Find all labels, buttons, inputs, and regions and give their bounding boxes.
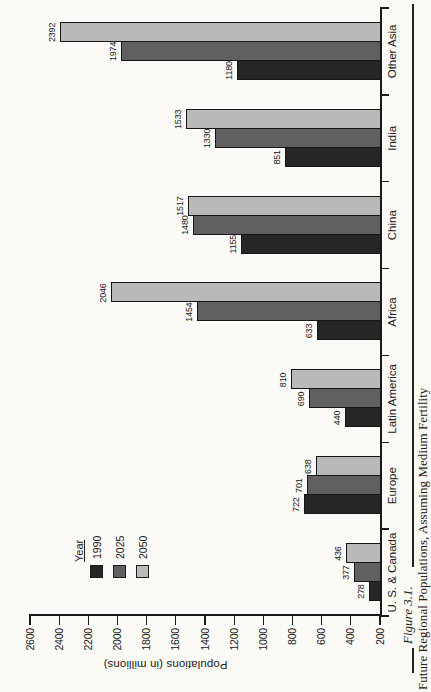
legend-label: 2050: [137, 536, 149, 559]
bar: [369, 581, 381, 601]
category-label: Other Asia: [386, 8, 398, 95]
category-label: U. S. & Canada: [386, 529, 398, 616]
bar: [197, 302, 381, 322]
bar: [317, 321, 381, 341]
bar: [345, 407, 381, 427]
bar: [60, 22, 381, 42]
bar-value-label: 436: [333, 534, 343, 574]
y-tick: [350, 614, 351, 625]
bar-value-label: 1533: [173, 99, 183, 139]
y-tick-label: 600: [315, 628, 327, 662]
y-tick: [321, 614, 322, 625]
category-label: Latin America: [386, 355, 398, 442]
bar: [285, 147, 381, 167]
y-tick: [29, 614, 30, 625]
legend-title: Year: [73, 536, 85, 562]
y-tick: [263, 614, 264, 625]
bar: [241, 234, 381, 254]
bar: [304, 494, 381, 514]
caption-rule-lead: [412, 648, 414, 673]
y-tick: [117, 614, 118, 625]
bar: [111, 283, 381, 303]
y-tick: [292, 614, 293, 625]
legend-entry-2050: 2050: [136, 536, 149, 578]
y-axis-title: Populations (in millions): [66, 656, 266, 671]
y-tick-label: 800: [286, 628, 298, 662]
bar-value-label: 638: [303, 447, 313, 487]
category-label: Europe: [386, 442, 398, 529]
legend-entry-1990: 1990: [90, 536, 103, 578]
bar: [309, 388, 382, 408]
bar: [291, 369, 381, 389]
y-tick: [175, 614, 176, 625]
bar: [307, 475, 381, 495]
bar-value-label: 2392: [47, 12, 57, 52]
legend-swatch-2050: [136, 565, 149, 578]
y-tick: [59, 614, 60, 625]
bar: [186, 109, 381, 129]
legend-label: 2025: [114, 536, 126, 559]
category-label: India: [386, 95, 398, 182]
bar-value-label: 1517: [175, 186, 185, 226]
y-tick: [234, 614, 235, 625]
bar: [237, 60, 381, 80]
bar: [346, 543, 381, 563]
y-tick: [204, 614, 205, 625]
bar: [316, 456, 381, 476]
legend-swatch-2025: [113, 565, 126, 578]
legend-label: 1990: [91, 536, 103, 559]
caption-rule-trail: [412, 4, 414, 567]
y-tick-label: 400: [344, 628, 356, 662]
figure-number-label: Figure 3.1.: [400, 586, 416, 644]
bar: [121, 41, 381, 61]
y-tick: [146, 614, 147, 625]
bar-value-label: 2046: [98, 273, 108, 313]
legend-swatch-1990: [90, 565, 103, 578]
legend: Year 1990 2025 2050: [73, 536, 159, 578]
category-label: Africa: [386, 269, 398, 356]
y-tick: [88, 614, 89, 625]
bar: [215, 128, 381, 148]
category-label: China: [386, 182, 398, 269]
bar: [193, 215, 381, 235]
y-tick-label: 2600: [24, 628, 36, 662]
y-tick-label: 2400: [53, 628, 65, 662]
legend-entry-2025: 2025: [113, 536, 126, 578]
y-tick-label: 200: [374, 628, 386, 662]
bar: [188, 196, 381, 216]
bar-value-label: 810: [278, 360, 288, 400]
bar: [354, 562, 381, 582]
figure-caption-title: Future Regional Populations, Assuming Me…: [415, 388, 431, 690]
